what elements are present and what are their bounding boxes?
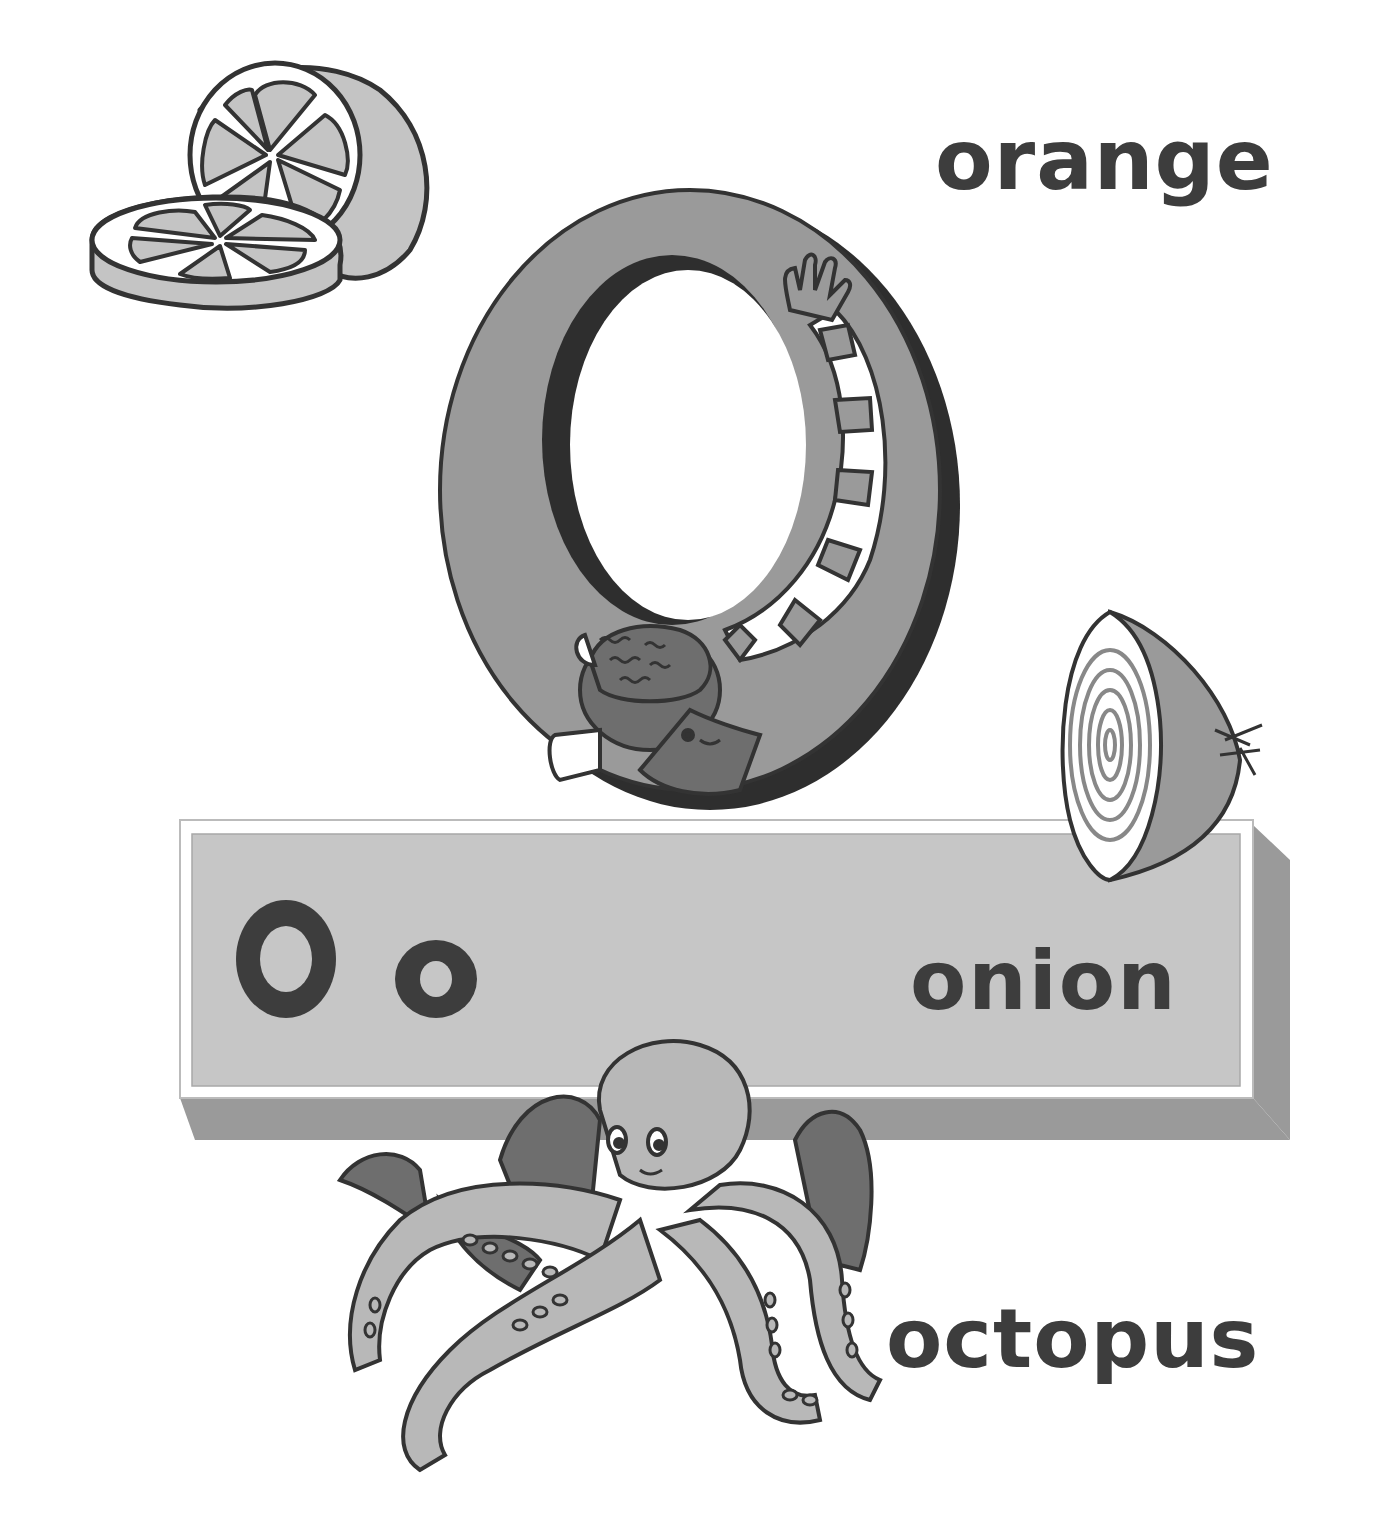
word-octopus: octopus [886,1298,1259,1380]
word-onion: onion [910,940,1178,1022]
orange-icon [92,63,427,308]
word-orange: orange [935,118,1274,202]
letter-o-child-icon [440,190,960,810]
